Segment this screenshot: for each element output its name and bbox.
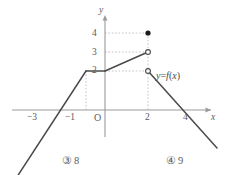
curve-equation-label: y=f(x)	[156, 71, 180, 81]
answer-choice-3-label: 8	[74, 155, 79, 166]
origin-label: O	[94, 113, 101, 123]
x-tick-label-minus1: −1	[65, 113, 75, 123]
answer-choice-4[interactable]: ④9	[166, 156, 183, 167]
answer-choice-3[interactable]: ③8	[62, 156, 79, 167]
curve-rising-middle-branch	[105, 52, 148, 71]
answer-choice-4-label: 9	[178, 155, 183, 166]
open-point-lower-marker	[146, 69, 151, 74]
x-tick-label-minus3: −3	[27, 113, 37, 123]
y-tick-label-2: 2	[92, 66, 97, 76]
answer-choice-4-marker: ④	[166, 155, 176, 166]
figure-root: y x O 4 3 2 −3 −1 2 4 y=f(x) ③8 ④9	[0, 0, 225, 175]
filled-point-marker	[145, 30, 150, 35]
y-tick-label-3: 3	[92, 48, 97, 58]
axes	[12, 15, 211, 137]
function-plot	[0, 0, 225, 175]
x-axis-label: x	[211, 113, 215, 123]
curve-label-close-paren: )	[177, 70, 180, 81]
y-tick-label-4: 4	[92, 29, 97, 39]
open-point-upper-marker	[146, 50, 151, 55]
y-axis-label: y	[99, 6, 103, 16]
x-tick-label-2: 2	[145, 113, 150, 123]
x-tick-label-4: 4	[183, 113, 188, 123]
answer-choice-3-marker: ③	[62, 155, 72, 166]
y-axis-arrow	[103, 15, 108, 21]
